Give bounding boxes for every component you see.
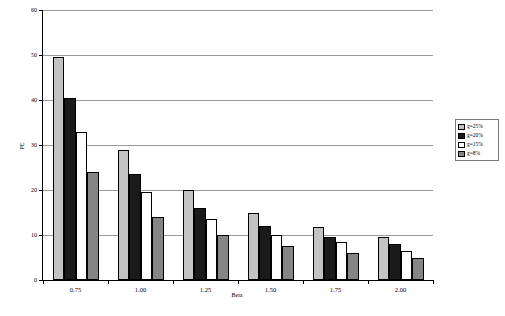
bar [217,235,229,280]
bar [389,244,401,280]
bar [401,251,413,280]
x-axis-title: Beta [42,291,432,299]
y-axis-tick-label: 0 [11,277,37,283]
bar [282,246,294,280]
legend-item-label: g=25% [467,123,483,130]
bar [378,237,390,280]
y-axis-tick-label: 20 [11,187,37,193]
bar [129,174,141,280]
bar [64,98,76,280]
y-axis-tick [39,10,43,11]
x-axis-tick [173,280,174,284]
gridline [43,235,433,236]
legend-item-label: g=20% [467,132,483,139]
x-axis-tick [368,280,369,284]
plot-area: 01020304050600.751.001.251.501.752.00 [42,10,433,281]
chart-legend: g=25%g=20%g=15%g=8% [455,119,499,161]
bar [313,227,325,280]
bar [324,237,336,280]
y-axis-tick [39,235,43,236]
legend-swatch-icon [458,151,465,157]
gridline [43,10,433,11]
gridline [43,100,433,101]
bar [118,150,130,281]
bar [271,235,283,280]
legend-item: g=8% [458,149,497,158]
bar [152,217,164,280]
bar [87,172,99,280]
x-axis-tick [433,280,434,284]
legend-swatch-icon [458,133,465,139]
legend-swatch-icon [458,142,465,148]
legend-item: g=15% [458,140,497,149]
x-axis-tick [108,280,109,284]
bar [194,208,206,280]
x-axis-tick [238,280,239,284]
y-axis-tick [39,100,43,101]
gridline [43,190,433,191]
x-axis-tick [43,280,44,284]
bar [248,213,260,281]
y-axis-tick [39,145,43,146]
bar [141,192,153,280]
bar [206,219,218,280]
bar [259,226,271,280]
bar [347,253,359,280]
bar-chart: PE 01020304050600.751.001.251.501.752.00… [0,0,505,316]
bar [183,190,195,280]
y-axis-tick-label: 30 [11,142,37,148]
legend-item-label: g=15% [467,141,483,148]
y-axis-tick-label: 10 [11,232,37,238]
bar [53,57,65,280]
y-axis-tick-label: 50 [11,52,37,58]
y-axis-tick [39,55,43,56]
legend-item: g=20% [458,131,497,140]
gridline [43,145,433,146]
bar [76,132,88,281]
gridline [43,55,433,56]
x-axis-tick [303,280,304,284]
y-axis-tick [39,190,43,191]
legend-item-label: g=8% [467,150,480,157]
legend-item: g=25% [458,122,497,131]
bar [336,242,348,280]
y-axis-tick-label: 60 [11,7,37,13]
y-axis-tick-label: 40 [11,97,37,103]
legend-swatch-icon [458,124,465,130]
bar [412,258,424,281]
